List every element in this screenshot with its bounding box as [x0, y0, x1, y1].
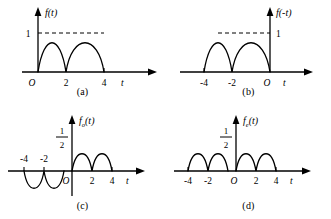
- function-label-c: fo(t): [79, 115, 95, 128]
- x-tick-label-d-minus4: -4: [184, 176, 192, 186]
- x-tick-label-c-minus4: -4: [20, 154, 28, 164]
- panel-b: f(-t) 1 -4 -2 O t (b): [166, 0, 331, 110]
- x-axis-arrow-c: [136, 168, 145, 175]
- y-tick-label-a: 1: [26, 29, 31, 39]
- origin-label-c: O: [63, 176, 70, 186]
- y-tick-numerator-d: 1: [224, 126, 229, 136]
- function-label-a: f(t): [45, 7, 58, 19]
- panel-a: f(t) 1 O 2 4 t (a): [0, 0, 165, 110]
- x-axis-name-c: t: [126, 176, 129, 186]
- panel-caption-c: (c): [0, 200, 165, 211]
- y-tick-denominator-d: 2: [224, 140, 229, 150]
- y-tick-denominator-c: 2: [60, 140, 65, 150]
- curve-a: [38, 43, 104, 72]
- x-tick-label-c-4: 4: [110, 176, 115, 186]
- x-tick-label-d-2: 2: [254, 176, 259, 186]
- x-tick-label-c-2: 2: [90, 176, 95, 186]
- origin-label-d: O: [231, 176, 238, 186]
- curve-b: [204, 43, 270, 72]
- panel-caption-b: (b): [166, 86, 331, 97]
- panel-c: fo(t) 1 2 -4 -2 O 2 4 t (c): [0, 108, 165, 218]
- x-tick-label-c-minus2: -2: [40, 154, 48, 164]
- x-tick-label-d-minus2: -2: [204, 176, 212, 186]
- function-label-b: f(-t): [276, 7, 292, 19]
- panel-d: fe(t) 1 2 -4 -2 O 2 4 t (d): [166, 108, 331, 218]
- y-tick-numerator-c: 1: [60, 126, 65, 136]
- y-axis-arrow-d: [233, 115, 240, 124]
- curve-c-negative: [24, 171, 64, 188]
- panel-caption-d: (d): [166, 200, 331, 211]
- figure-grid: f(t) 1 O 2 4 t (a): [0, 0, 331, 219]
- x-axis-arrow-d: [302, 168, 311, 175]
- y-axis-arrow-a: [35, 7, 42, 16]
- y-axis-arrow-b: [267, 7, 274, 16]
- x-axis-arrow-b: [304, 69, 313, 76]
- panel-caption-a: (a): [0, 86, 165, 97]
- x-axis-arrow-a: [148, 69, 157, 76]
- x-axis-name-d: t: [290, 176, 293, 186]
- function-label-d: fe(t): [243, 115, 259, 128]
- x-tick-label-d-4: 4: [274, 176, 279, 186]
- y-tick-label-b: 1: [276, 29, 281, 39]
- y-axis-arrow-c: [69, 115, 76, 124]
